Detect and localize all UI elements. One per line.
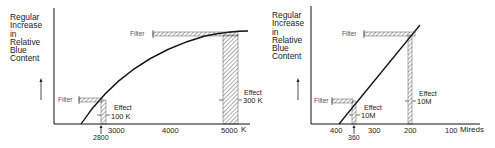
left-effect-high-title: Effect xyxy=(244,89,262,96)
right-chart xyxy=(297,6,481,134)
left-tick: 3000 xyxy=(108,126,125,135)
left-filter-low-band xyxy=(79,98,102,102)
left-effect-low-value: 100 K xyxy=(111,112,131,121)
right-tick: 300 xyxy=(368,126,381,135)
left-tick: 4000 xyxy=(162,126,179,135)
right-tick: 400 xyxy=(330,126,343,135)
diagram-canvas xyxy=(0,0,495,148)
right-effect-high-title: Effect xyxy=(419,90,437,97)
right-x-unit: Mireds xyxy=(460,125,484,134)
right-y-label: Regular Increase in Relative Blue Conten… xyxy=(272,11,304,61)
right-tick: 200 xyxy=(404,126,417,135)
right-effect-low-band xyxy=(352,101,356,124)
left-chart xyxy=(40,8,251,134)
left-x-unit: K xyxy=(241,125,246,134)
y-label-line: Content xyxy=(272,52,304,60)
left-marker-arrow-icon xyxy=(100,125,103,128)
left-y-label: Regular Increase in Relative Blue Conten… xyxy=(10,13,42,63)
y-label-line: Content xyxy=(10,54,42,62)
right-tick: 100 xyxy=(445,126,458,135)
right-effect-low-value: 10M xyxy=(361,111,376,120)
right-marker-arrow-icon xyxy=(353,125,356,128)
left-filter-low-label: Filter xyxy=(58,96,72,103)
right-effect-high-band xyxy=(408,35,412,124)
left-marker-label: 2800 xyxy=(93,134,109,141)
right-filter-high-label: Filter xyxy=(342,30,356,37)
left-tick: 5000 xyxy=(221,126,238,135)
right-filter-low-label: Filter xyxy=(314,97,328,104)
right-effect-low-title: Effect xyxy=(364,104,382,111)
left-filter-high-label: Filter xyxy=(130,30,144,37)
right-effect-high-value: 10M xyxy=(417,97,432,106)
right-filter-high-band xyxy=(364,32,415,36)
left-effect-high-value: 300 K xyxy=(243,96,263,105)
right-filter-low-band xyxy=(332,99,353,103)
left-effect-low-band xyxy=(101,100,106,124)
left-effect-high-band xyxy=(223,35,238,124)
left-effect-low-title: Effect xyxy=(114,104,132,111)
right-marker-label: 360 xyxy=(348,134,360,141)
